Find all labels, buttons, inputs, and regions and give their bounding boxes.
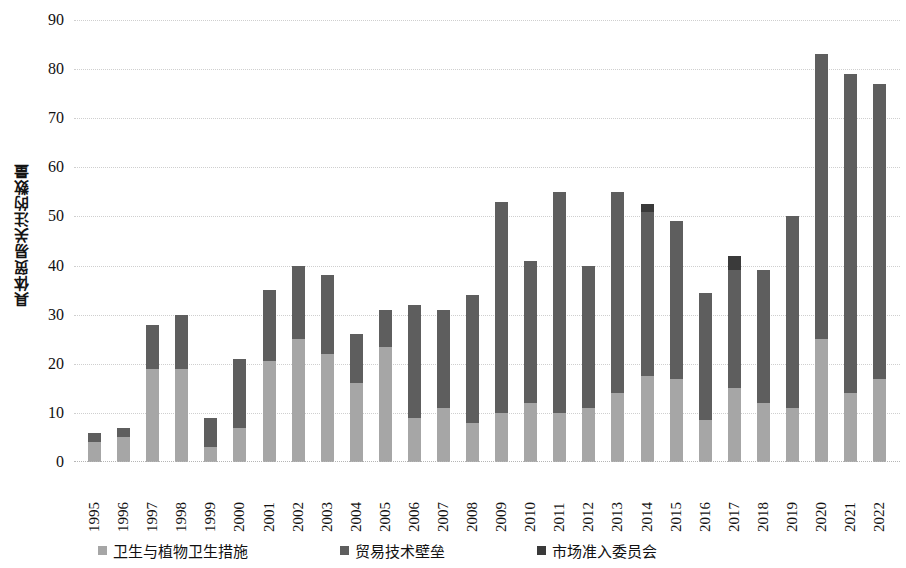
bar-column[interactable]: [400, 20, 429, 462]
bar-segment[interactable]: [728, 388, 741, 462]
legend-item[interactable]: 贸易技术壁垒: [340, 540, 445, 561]
bar-segment[interactable]: [815, 339, 828, 462]
bar-segment[interactable]: [292, 339, 305, 462]
bar-segment[interactable]: [146, 369, 159, 462]
bar-column[interactable]: [342, 20, 371, 462]
stacked-bar[interactable]: [699, 293, 712, 462]
stacked-bar[interactable]: [437, 310, 450, 462]
bar-segment[interactable]: [350, 383, 363, 462]
bar-column[interactable]: [691, 20, 720, 462]
bar-segment[interactable]: [641, 212, 654, 377]
bar-segment[interactable]: [757, 403, 770, 462]
stacked-bar[interactable]: [117, 428, 130, 462]
bar-column[interactable]: [458, 20, 487, 462]
bar-segment[interactable]: [611, 393, 624, 462]
bar-segment[interactable]: [786, 216, 799, 408]
bar-segment[interactable]: [582, 408, 595, 462]
bar-segment[interactable]: [582, 266, 595, 408]
bar-column[interactable]: [254, 20, 283, 462]
stacked-bar[interactable]: [233, 359, 246, 462]
bar-column[interactable]: [603, 20, 632, 462]
legend-item[interactable]: 市场准入委员会: [537, 540, 657, 561]
bar-segment[interactable]: [466, 295, 479, 423]
bar-segment[interactable]: [263, 290, 276, 361]
bar-segment[interactable]: [524, 403, 537, 462]
bar-column[interactable]: [371, 20, 400, 462]
stacked-bar[interactable]: [844, 74, 857, 462]
bar-segment[interactable]: [873, 84, 886, 379]
bar-segment[interactable]: [204, 447, 217, 462]
bar-segment[interactable]: [379, 310, 392, 347]
bar-segment[interactable]: [611, 192, 624, 393]
stacked-bar[interactable]: [815, 54, 828, 462]
bar-column[interactable]: [865, 20, 894, 462]
bar-segment[interactable]: [88, 433, 101, 443]
bar-segment[interactable]: [524, 261, 537, 403]
bar-segment[interactable]: [641, 204, 654, 211]
bar-segment[interactable]: [553, 413, 566, 462]
stacked-bar[interactable]: [553, 192, 566, 462]
bar-segment[interactable]: [728, 270, 741, 388]
legend-item[interactable]: 卫生与植物卫生措施: [98, 540, 248, 561]
bar-segment[interactable]: [699, 293, 712, 421]
bar-segment[interactable]: [815, 54, 828, 339]
bar-column[interactable]: [662, 20, 691, 462]
bar-column[interactable]: [749, 20, 778, 462]
bar-segment[interactable]: [844, 74, 857, 393]
bar-segment[interactable]: [117, 428, 130, 438]
bar-segment[interactable]: [670, 221, 683, 378]
bar-segment[interactable]: [699, 420, 712, 462]
bar-segment[interactable]: [321, 275, 334, 354]
bar-column[interactable]: [109, 20, 138, 462]
bar-column[interactable]: [284, 20, 313, 462]
bar-segment[interactable]: [233, 359, 246, 428]
bar-segment[interactable]: [175, 369, 188, 462]
bar-segment[interactable]: [437, 408, 450, 462]
stacked-bar[interactable]: [786, 216, 799, 462]
stacked-bar[interactable]: [466, 295, 479, 462]
bar-segment[interactable]: [88, 442, 101, 462]
stacked-bar[interactable]: [728, 256, 741, 462]
stacked-bar[interactable]: [757, 270, 770, 462]
bar-column[interactable]: [196, 20, 225, 462]
stacked-bar[interactable]: [292, 266, 305, 462]
stacked-bar[interactable]: [350, 334, 363, 462]
bar-segment[interactable]: [292, 266, 305, 340]
bar-segment[interactable]: [466, 423, 479, 462]
bar-segment[interactable]: [321, 354, 334, 462]
bar-segment[interactable]: [728, 256, 741, 271]
bar-segment[interactable]: [670, 379, 683, 462]
stacked-bar[interactable]: [408, 305, 421, 462]
bar-segment[interactable]: [641, 376, 654, 462]
bar-segment[interactable]: [757, 270, 770, 403]
bar-column[interactable]: [487, 20, 516, 462]
bar-segment[interactable]: [873, 379, 886, 462]
stacked-bar[interactable]: [524, 261, 537, 462]
stacked-bar[interactable]: [670, 221, 683, 462]
bar-column[interactable]: [720, 20, 749, 462]
stacked-bar[interactable]: [204, 418, 217, 462]
stacked-bar[interactable]: [263, 290, 276, 462]
stacked-bar[interactable]: [495, 202, 508, 462]
bar-segment[interactable]: [233, 428, 246, 462]
stacked-bar[interactable]: [379, 310, 392, 462]
bar-column[interactable]: [313, 20, 342, 462]
stacked-bar[interactable]: [88, 433, 101, 462]
stacked-bar[interactable]: [146, 325, 159, 462]
bar-segment[interactable]: [146, 325, 159, 369]
bar-segment[interactable]: [786, 408, 799, 462]
bar-column[interactable]: [778, 20, 807, 462]
bar-column[interactable]: [429, 20, 458, 462]
stacked-bar[interactable]: [611, 192, 624, 462]
bar-segment[interactable]: [117, 437, 130, 462]
bar-column[interactable]: [807, 20, 836, 462]
bar-segment[interactable]: [495, 202, 508, 413]
stacked-bar[interactable]: [641, 204, 654, 462]
bar-column[interactable]: [138, 20, 167, 462]
bar-segment[interactable]: [379, 347, 392, 462]
bar-column[interactable]: [516, 20, 545, 462]
stacked-bar[interactable]: [873, 84, 886, 462]
bar-column[interactable]: [167, 20, 196, 462]
stacked-bar[interactable]: [582, 266, 595, 462]
stacked-bar[interactable]: [321, 275, 334, 462]
